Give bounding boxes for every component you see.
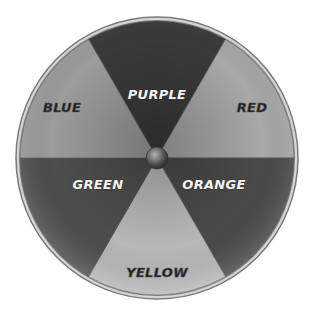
slice-label-yellow: YELLOW bbox=[126, 265, 188, 280]
slice-label-blue: BLUE bbox=[43, 100, 81, 115]
color-wheel[interactable]: PURPLEREDORANGEYELLOWGREENBLUE bbox=[0, 0, 310, 316]
spin-wheel-game: PURPLEREDORANGEYELLOWGREENBLUE bbox=[0, 0, 310, 316]
wheel-hub[interactable] bbox=[146, 147, 168, 169]
slice-label-purple: PURPLE bbox=[128, 87, 187, 102]
slice-label-red: RED bbox=[237, 100, 268, 115]
slice-label-orange: ORANGE bbox=[182, 177, 245, 192]
slice-label-green: GREEN bbox=[73, 177, 124, 192]
